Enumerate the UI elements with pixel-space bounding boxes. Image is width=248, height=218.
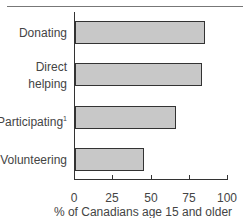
tick-label: 75 [182,191,195,205]
label-line2: helping [28,77,67,91]
x-axis-title: % of Canadians age 15 and older [0,205,248,218]
bar-direct-helping [75,63,202,86]
tick-label: 25 [105,191,118,205]
category-label-direct-helping: Direct helping [28,59,67,93]
label-line1: Direct [36,60,67,74]
tick-label: 0 [71,191,78,205]
bar-volunteering [75,148,144,171]
x-tick [112,175,113,180]
label-text: Participating [0,115,63,129]
x-tick [151,175,152,180]
tick-label: 50 [144,191,157,205]
tick-label: 100 [217,191,237,205]
x-tick [74,175,75,180]
footnote-marker: 1 [63,115,67,122]
x-tick [227,175,228,180]
x-tick [189,175,190,180]
category-label-donating: Donating [19,25,67,42]
category-label-participating: Participating1 [0,110,67,131]
bar-donating [75,21,205,44]
category-label-volunteering: Volunteering [0,152,67,169]
top-rule [7,6,243,7]
bar-participating [75,106,176,129]
